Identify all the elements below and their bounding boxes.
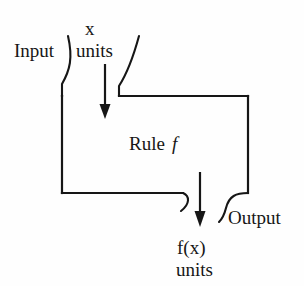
output-arrow [195,172,206,227]
input-variable-label: x [85,18,95,39]
input-funnel-left-curve [62,36,70,96]
rule-label: Rulef [129,133,177,154]
input-funnel-right-curve [119,36,139,96]
output-units-label: units [176,259,213,280]
function-machine-figure: Input x units Rulef Output f(x) units [0,0,304,286]
output-label: Output [228,207,281,228]
input-units-label: units [76,40,113,61]
rule-word: Rule [129,133,165,154]
input-label: Input [14,40,54,61]
output-funnel-left-curve [181,193,188,211]
rule-function-symbol: f [172,133,177,154]
input-arrow [100,64,111,119]
output-expression-label: f(x) [177,237,205,258]
